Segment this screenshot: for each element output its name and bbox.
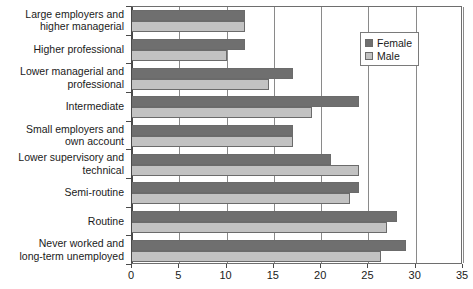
x-tick-mark: [226, 264, 227, 268]
bar-female: [132, 154, 331, 165]
x-tick-mark: [320, 264, 321, 268]
bar-male: [132, 50, 227, 61]
bar-female: [132, 39, 245, 50]
y-tick-mark: [126, 6, 131, 7]
gridline: [463, 7, 464, 263]
bar-female: [132, 211, 397, 222]
bar-male: [132, 222, 387, 233]
x-tick-label: 10: [219, 269, 231, 281]
category-label: Intermediate: [0, 100, 124, 113]
category-label: Semi-routine: [0, 186, 124, 199]
x-tick-mark: [178, 264, 179, 268]
category-label: Never worked and long-term unemployed: [0, 237, 124, 262]
bar-male: [132, 165, 359, 176]
x-tick-mark: [273, 264, 274, 268]
legend-swatch-female: [365, 39, 373, 47]
category-label: Higher professional: [0, 43, 124, 56]
bar-male: [132, 251, 381, 262]
x-tick-mark: [131, 264, 132, 268]
y-tick-mark: [126, 92, 131, 93]
y-tick-mark: [126, 207, 131, 208]
bar-female: [132, 96, 359, 107]
bar-female: [132, 240, 406, 251]
x-tick-mark: [415, 264, 416, 268]
bar-female: [132, 68, 293, 79]
x-tick-label: 5: [175, 269, 181, 281]
legend-item-male: Male: [365, 49, 412, 62]
bar-female: [132, 182, 359, 193]
y-tick-mark: [126, 35, 131, 36]
x-tick-label: 35: [456, 269, 468, 281]
bar-female: [132, 10, 245, 21]
y-tick-mark: [126, 121, 131, 122]
x-tick-mark: [367, 264, 368, 268]
bar-male: [132, 107, 312, 118]
category-label: Large employers and higher managerial: [0, 8, 124, 33]
category-label: Routine: [0, 215, 124, 228]
x-tick-label: 25: [361, 269, 373, 281]
y-tick-mark: [126, 149, 131, 150]
y-tick-mark: [126, 178, 131, 179]
category-label: Lower supervisory and technical: [0, 151, 124, 176]
category-axis: Large employers and higher managerialHig…: [0, 0, 128, 264]
legend-swatch-male: [365, 52, 373, 60]
category-label: Small employers and own account: [0, 123, 124, 148]
bar-male: [132, 136, 293, 147]
bar-male: [132, 21, 245, 32]
legend-label: Male: [377, 50, 400, 62]
category-label: Lower managerial and professional: [0, 65, 124, 90]
x-tick-label: 15: [267, 269, 279, 281]
bar-female: [132, 125, 293, 136]
x-tick-label: 0: [128, 269, 134, 281]
bar-male: [132, 193, 350, 204]
chart-legend: FemaleMale: [360, 32, 419, 66]
y-tick-mark: [126, 235, 131, 236]
legend-label: Female: [377, 37, 412, 49]
x-tick-label: 30: [409, 269, 421, 281]
bar-male: [132, 79, 269, 90]
x-tick-mark: [462, 264, 463, 268]
bar-chart: Large employers and higher managerialHig…: [0, 0, 473, 289]
y-tick-mark: [126, 63, 131, 64]
legend-item-female: Female: [365, 36, 412, 49]
x-tick-label: 20: [314, 269, 326, 281]
